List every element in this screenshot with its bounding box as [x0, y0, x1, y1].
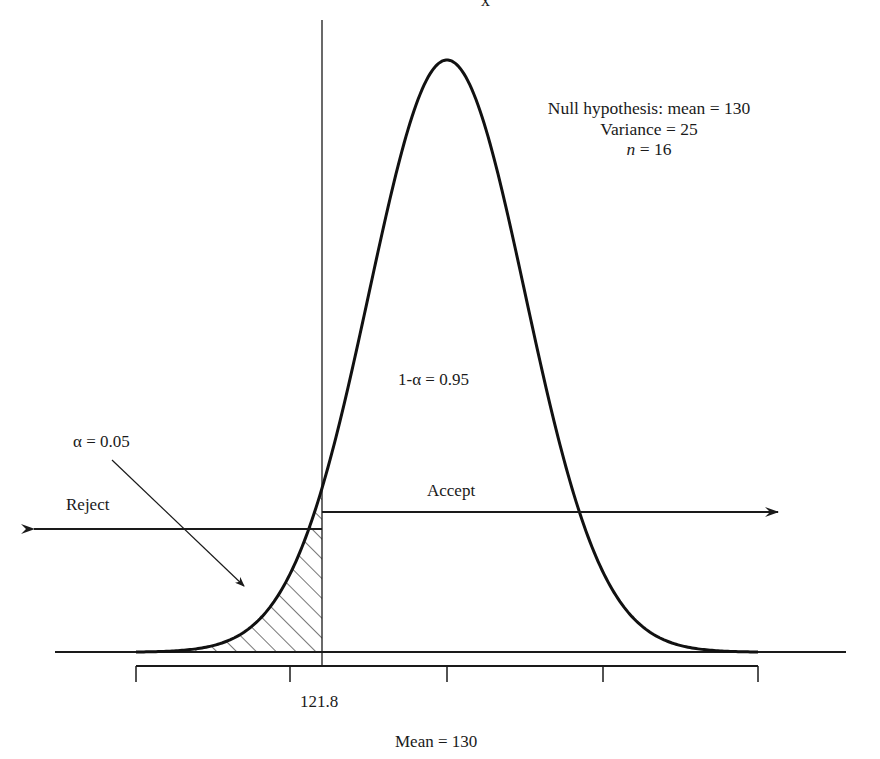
critical-value-label: 121.8 — [300, 692, 338, 712]
n-variable: n — [627, 139, 636, 159]
x-bar-label: x̄ — [481, 0, 490, 10]
null-hypothesis-line: Null hypothesis: mean = 130 — [514, 98, 784, 119]
reject-label: Reject — [66, 495, 109, 515]
null-hypothesis-annotation: Null hypothesis: mean = 130 Variance = 2… — [514, 98, 784, 160]
variance-line: Variance = 25 — [514, 119, 784, 140]
sample-size-line: n = 16 — [514, 139, 784, 160]
one-minus-alpha-label: 1-α = 0.95 — [398, 370, 469, 390]
accept-label: Accept — [427, 481, 475, 501]
rejection-region-hatch — [136, 488, 322, 652]
alpha-pointer-arrow — [112, 460, 244, 586]
mean-label: Mean = 130 — [395, 732, 477, 752]
alpha-label: α = 0.05 — [73, 432, 130, 452]
n-value: = 16 — [635, 139, 671, 159]
tick-marks — [136, 666, 758, 682]
